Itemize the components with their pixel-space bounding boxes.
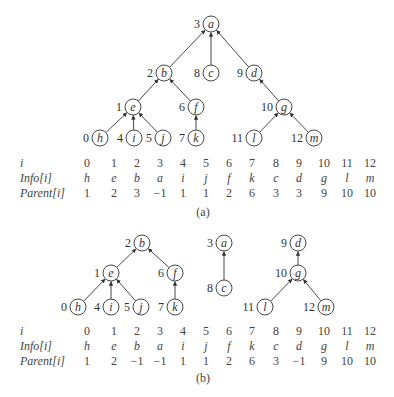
cell-info-1: e bbox=[111, 339, 116, 354]
edge-h-to-e bbox=[84, 279, 106, 301]
cell-info-3: a bbox=[157, 171, 163, 186]
cell-info-9: d bbox=[296, 339, 302, 354]
node-letter: d bbox=[251, 66, 258, 80]
cell-i-8: 8 bbox=[273, 324, 279, 339]
cell-info-0: h bbox=[84, 339, 90, 354]
cell-i-0: 0 bbox=[84, 324, 90, 339]
cell-info-12: m bbox=[366, 171, 375, 186]
cell-parent-7: 6 bbox=[249, 186, 255, 201]
cell-info-0: h bbox=[84, 171, 90, 186]
node-letter: b bbox=[139, 236, 145, 250]
node-index: 12 bbox=[291, 131, 303, 145]
node-letter: c bbox=[208, 66, 214, 80]
node-index: 10 bbox=[261, 100, 273, 114]
node-g: g10 bbox=[275, 265, 306, 281]
node-e: e1 bbox=[94, 265, 119, 281]
node-l: l11 bbox=[242, 299, 273, 315]
edge-f-to-b bbox=[148, 249, 169, 268]
node-d: d9 bbox=[281, 235, 306, 251]
node-a: a3 bbox=[194, 16, 219, 32]
node-letter: d bbox=[295, 236, 302, 250]
node-letter: a bbox=[208, 17, 214, 31]
row-label-i: i bbox=[20, 156, 23, 171]
tree-b: b2a3d9e1f6g10c8h0i4j5k7l11m12 bbox=[61, 235, 334, 315]
node-letter: e bbox=[108, 266, 114, 280]
edge-e-to-b bbox=[117, 249, 136, 268]
node-index: 6 bbox=[158, 266, 164, 280]
node-index: 8 bbox=[207, 281, 213, 295]
row-label-info: Info[i] bbox=[20, 171, 52, 186]
node-index: 1 bbox=[94, 266, 100, 280]
cell-i-2: 2 bbox=[134, 156, 140, 171]
cell-i-9: 9 bbox=[296, 156, 302, 171]
node-letter: g bbox=[295, 266, 301, 280]
cell-parent-4: 1 bbox=[180, 186, 186, 201]
node-index: 2 bbox=[125, 236, 131, 250]
node-letter: h bbox=[75, 300, 81, 314]
row-label-parent: Parent[i] bbox=[20, 186, 65, 201]
cell-i-1: 1 bbox=[111, 156, 117, 171]
edge-m-to-g bbox=[303, 280, 321, 301]
node-index: 4 bbox=[94, 300, 100, 314]
row-label-info: Info[i] bbox=[20, 339, 52, 354]
node-letter: a bbox=[221, 236, 227, 250]
cell-i-11: 11 bbox=[341, 324, 353, 339]
caption-a: (a) bbox=[196, 205, 209, 220]
cell-i-12: 12 bbox=[364, 324, 376, 339]
node-index: 4 bbox=[117, 131, 123, 145]
node-index: 2 bbox=[147, 66, 153, 80]
node-letter: b bbox=[161, 66, 167, 80]
row-label-i: i bbox=[20, 324, 23, 339]
cell-info-9: d bbox=[296, 171, 302, 186]
node-index: 3 bbox=[207, 236, 213, 250]
cell-i-6: 6 bbox=[226, 324, 232, 339]
node-j: j5 bbox=[146, 130, 171, 146]
node-index: 10 bbox=[275, 266, 287, 280]
cell-parent-6: 2 bbox=[226, 186, 232, 201]
node-i: i4 bbox=[94, 299, 119, 315]
edge-j-to-e bbox=[117, 279, 136, 301]
node-letter: i bbox=[109, 300, 112, 314]
cell-parent-6: 2 bbox=[226, 354, 232, 369]
cell-i-3: 3 bbox=[157, 324, 163, 339]
cell-parent-8: 3 bbox=[273, 354, 279, 369]
cell-i-0: 0 bbox=[84, 156, 90, 171]
cell-parent-3: −1 bbox=[154, 354, 167, 369]
cell-parent-9: −1 bbox=[293, 354, 306, 369]
cell-info-6: f bbox=[227, 339, 230, 354]
cell-info-6: f bbox=[227, 171, 230, 186]
cell-parent-5: 1 bbox=[203, 186, 209, 201]
cell-info-8: c bbox=[273, 339, 278, 354]
cell-i-12: 12 bbox=[364, 156, 376, 171]
node-index: 9 bbox=[281, 236, 287, 250]
row-label-parent: Parent[i] bbox=[20, 354, 65, 369]
node-index: 0 bbox=[61, 300, 67, 314]
node-index: 0 bbox=[83, 131, 89, 145]
edge-j-to-e bbox=[139, 113, 158, 132]
cell-i-7: 7 bbox=[249, 324, 255, 339]
cell-info-7: k bbox=[249, 339, 254, 354]
cell-i-8: 8 bbox=[273, 156, 279, 171]
edge-f-to-b bbox=[170, 79, 191, 101]
node-h: h0 bbox=[61, 299, 86, 315]
cell-info-10: g bbox=[321, 171, 327, 186]
edge-l-to-g bbox=[271, 279, 293, 301]
edge-b-to-a bbox=[170, 30, 206, 67]
cell-info-10: g bbox=[321, 339, 327, 354]
edge-l-to-g bbox=[260, 113, 279, 132]
cell-info-5: j bbox=[204, 339, 207, 354]
node-a: a3 bbox=[207, 235, 232, 251]
node-index: 3 bbox=[194, 17, 200, 31]
cell-i-6: 6 bbox=[226, 156, 232, 171]
cell-parent-12: 10 bbox=[364, 186, 376, 201]
node-index: 7 bbox=[179, 131, 185, 145]
cell-i-5: 5 bbox=[203, 324, 209, 339]
cell-parent-7: 6 bbox=[249, 354, 255, 369]
node-h: h0 bbox=[83, 130, 108, 146]
cell-info-11: l bbox=[345, 339, 348, 354]
cell-parent-9: 3 bbox=[296, 186, 302, 201]
cell-i-7: 7 bbox=[249, 156, 255, 171]
node-letter: k bbox=[193, 131, 199, 145]
node-g: g10 bbox=[261, 99, 292, 115]
node-index: 8 bbox=[194, 66, 200, 80]
